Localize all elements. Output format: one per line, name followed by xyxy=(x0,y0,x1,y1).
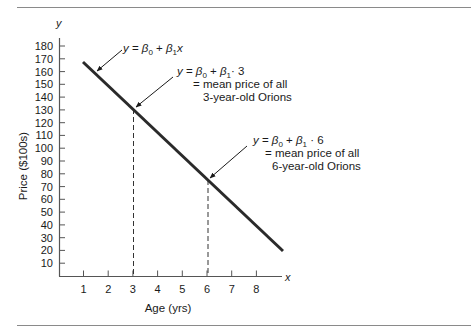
annotation-age3-line3: 3-year-old Orions xyxy=(203,91,292,103)
x-tick-label: 5 xyxy=(179,283,185,295)
y-tick-label: 90 xyxy=(41,155,53,167)
arrow-general xyxy=(97,50,122,71)
y-ticks: 180 170 160 150 140 130 120 110 100 90 8… xyxy=(35,40,65,269)
y-tick-label: 130 xyxy=(35,104,53,116)
y-tick-label: 10 xyxy=(41,257,53,269)
y-tick-label: 40 xyxy=(41,219,53,231)
x-ticks: 1 2 3 4 5 6 7 8 xyxy=(80,271,259,296)
annotation-age3-line2: = mean price of all xyxy=(193,78,287,90)
y-tick-label: 120 xyxy=(35,117,53,129)
y-tick-label: 20 xyxy=(41,244,53,256)
y-tick-label: 140 xyxy=(35,91,53,103)
y-tick-label: 110 xyxy=(35,129,53,141)
annotation-age6-line2: = mean price of all xyxy=(265,147,359,159)
x-tick-label: 2 xyxy=(105,283,111,295)
x-tick-label: 8 xyxy=(253,283,259,295)
x-tick-label: 3 xyxy=(130,283,136,295)
y-axis-title: Price ($100s) xyxy=(17,132,29,201)
arrow-age6 xyxy=(210,146,247,178)
regression-figure: y x 180 170 160 150 140 130 120 110 100 … xyxy=(0,0,471,336)
y-tick-label: 80 xyxy=(41,168,53,180)
annotation-general: y = β0 + β1x xyxy=(122,42,184,57)
y-tick-label: 180 xyxy=(35,40,53,52)
y-tick-label: 100 xyxy=(35,142,53,154)
y-tick-label: 160 xyxy=(35,66,53,78)
y-tick-label: 70 xyxy=(41,181,53,193)
y-tick-label: 60 xyxy=(41,193,53,205)
y-tick-label: 30 xyxy=(41,232,53,244)
arrow-age3 xyxy=(136,77,173,107)
annotation-age3: y = β0 + β1· 3 = mean price of all 3-yea… xyxy=(176,65,292,103)
y-axis-symbol: y xyxy=(55,17,63,29)
y-tick-label: 170 xyxy=(35,53,53,65)
x-axis-symbol: x xyxy=(284,271,291,283)
x-tick-label: 1 xyxy=(80,283,86,295)
x-tick-label: 4 xyxy=(155,283,161,295)
x-tick-label: 6 xyxy=(204,283,210,295)
x-axis-title: Age (yrs) xyxy=(145,302,192,314)
y-tick-label: 50 xyxy=(41,206,53,218)
x-tick-label: 7 xyxy=(229,283,235,295)
annotation-age6: y = β0 + β1 · 6 = mean price of all 6-ye… xyxy=(252,134,361,172)
annotation-age6-line3: 6-year-old Orions xyxy=(272,160,361,172)
y-tick-label: 150 xyxy=(35,78,53,90)
